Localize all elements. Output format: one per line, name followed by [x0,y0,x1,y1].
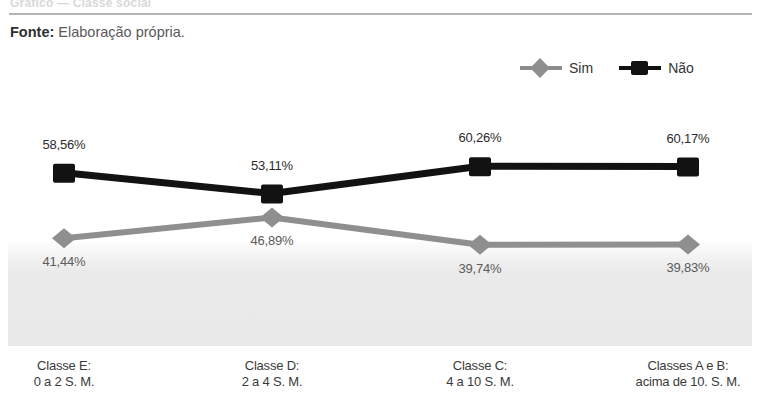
square-marker-icon [619,61,661,75]
x-axis-label-line2: acima de 10. S. M. [636,374,741,390]
x-axis-labels: Classe E:0 a 2 S. M.Classe D:2 a 4 S. M.… [0,358,760,408]
legend-label-sim: Sim [569,60,593,76]
source-value: Elaboração própria. [58,24,185,40]
cut-off-caption: Gráfico — Classe social [10,0,151,10]
data-label: 46,89% [251,233,294,248]
header-divider [9,13,752,15]
x-axis-label-line2: 4 a 10 S. M. [446,374,514,390]
x-axis-label-2: Classe C:4 a 10 S. M. [446,358,514,390]
data-point-marker[interactable] [468,235,492,255]
data-point-marker[interactable] [53,164,75,183]
series-path-sim [64,217,688,244]
data-label: 53,11% [251,158,293,173]
x-axis-label-line1: Classe D: [245,358,300,373]
x-axis-label-line1: Classe C: [453,358,508,373]
data-label: 60,17% [667,131,710,146]
data-label: 41,44% [43,254,86,269]
data-point-marker[interactable] [52,228,76,248]
data-point-marker[interactable] [261,185,283,204]
x-axis-label-line1: Classes A e B: [647,358,728,373]
plot-area: 58,56%53,11%60,26%60,17%41,44%46,89%39,7… [0,88,760,346]
x-axis-label-0: Classe E:0 a 2 S. M. [34,358,95,390]
data-point-marker[interactable] [676,234,700,254]
x-axis-label-line2: 2 a 4 S. M. [242,374,303,390]
data-label: 39,74% [459,261,502,276]
source-note: Fonte: Elaboração própria. [10,24,185,40]
series-line-nao [53,157,699,203]
legend-item-nao[interactable]: Não [619,60,694,76]
data-point-marker[interactable] [469,157,491,176]
chart-page: Gráfico — Classe social Fonte: Elaboraçã… [0,0,760,411]
legend-label-nao: Não [668,60,694,76]
diamond-marker-icon [520,61,562,75]
series-line-sim [52,207,700,254]
x-axis-label-line2: 0 a 2 S. M. [34,374,95,390]
legend-item-sim[interactable]: Sim [520,60,593,76]
data-point-marker[interactable] [677,158,699,177]
x-axis-label-1: Classe D:2 a 4 S. M. [242,358,303,390]
data-point-marker[interactable] [260,207,284,227]
data-label: 58,56% [43,137,86,152]
source-label: Fonte: [10,24,54,40]
data-label: 60,26% [459,130,502,145]
x-axis-label-3: Classes A e B:acima de 10. S. M. [636,358,741,390]
series-canvas [0,88,760,346]
data-label: 39,83% [667,260,710,275]
chart-legend: Sim Não [520,60,694,76]
series-path-nao [64,166,688,193]
x-axis-label-line1: Classe E: [37,358,91,373]
